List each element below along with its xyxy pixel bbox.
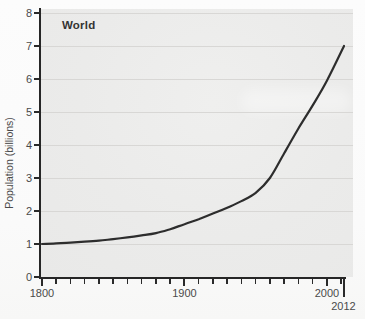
gridline <box>41 244 353 245</box>
x-minor-tick <box>212 279 214 284</box>
x-minor-tick <box>241 279 243 284</box>
gridline <box>41 112 353 113</box>
gridline <box>41 13 353 14</box>
plot-area <box>41 9 353 277</box>
y-tick <box>34 276 39 278</box>
x-major-tick <box>183 279 185 286</box>
x-minor-tick <box>70 279 72 284</box>
page-bleed-through-artifact <box>241 89 351 113</box>
x-minor-tick <box>169 279 171 284</box>
gridline <box>41 211 353 212</box>
population-chart-figure: 012345678 180019002000 World Population … <box>0 0 365 319</box>
y-tick <box>34 177 39 179</box>
y-tick <box>34 243 39 245</box>
y-tick-label: 7 <box>10 39 32 53</box>
y-tick <box>34 12 39 14</box>
x-tick-label: 1900 <box>167 287 201 299</box>
gridline <box>41 178 353 179</box>
gridline <box>41 145 353 146</box>
y-tick <box>34 45 39 47</box>
y-axis-title: Population (billions) <box>3 117 15 209</box>
y-tick-label: 0 <box>10 270 32 284</box>
y-tick <box>34 210 39 212</box>
y-tick-label: 6 <box>10 72 32 86</box>
y-tick <box>34 111 39 113</box>
y-tick <box>34 144 39 146</box>
x-major-tick <box>41 279 43 286</box>
x-minor-tick <box>98 279 100 284</box>
x-minor-tick <box>226 279 228 284</box>
x-minor-tick <box>141 279 143 284</box>
x-major-tick <box>326 279 328 286</box>
x-minor-tick <box>127 279 129 284</box>
x-minor-tick <box>298 279 300 284</box>
x-minor-tick <box>198 279 200 284</box>
x-minor-tick <box>269 279 271 284</box>
x-minor-tick <box>283 279 285 284</box>
x-minor-tick <box>155 279 157 284</box>
y-tick <box>34 78 39 80</box>
gridline <box>41 46 353 47</box>
x-minor-tick <box>255 279 257 284</box>
y-tick-label: 8 <box>10 6 32 20</box>
x-axis-end-label: 2012 <box>326 300 361 312</box>
x-tick-label: 2000 <box>310 287 344 299</box>
x-minor-tick <box>84 279 86 284</box>
x-minor-tick <box>55 279 57 284</box>
y-tick-label: 1 <box>10 237 32 251</box>
y-axis-line <box>39 8 41 279</box>
x-minor-tick <box>340 279 342 284</box>
x-minor-tick <box>112 279 114 284</box>
x-minor-tick <box>312 279 314 284</box>
gridline <box>41 79 353 80</box>
x-tick-label: 1800 <box>25 287 59 299</box>
series-title: World <box>62 19 95 31</box>
